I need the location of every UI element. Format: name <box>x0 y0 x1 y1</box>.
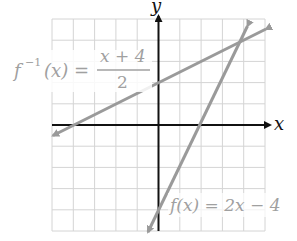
f-label-text: f(x) = 2x − 4 <box>168 195 280 215</box>
finv-numerator: x + 4 <box>100 46 145 66</box>
finv-arg: (x) = <box>44 60 89 81</box>
graph-canvas: y x f −1 (x) = x + 4 2 f(x) = 2x − 4 <box>0 0 297 241</box>
inverse-function-label: f −1 (x) = x + 4 2 <box>12 46 152 92</box>
function-label: f(x) = 2x − 4 <box>168 193 282 217</box>
y-axis-label: y <box>150 0 162 16</box>
x-axis-label: x <box>274 113 284 134</box>
finv-denominator: 2 <box>117 72 128 92</box>
finv-sup: −1 <box>25 56 41 69</box>
